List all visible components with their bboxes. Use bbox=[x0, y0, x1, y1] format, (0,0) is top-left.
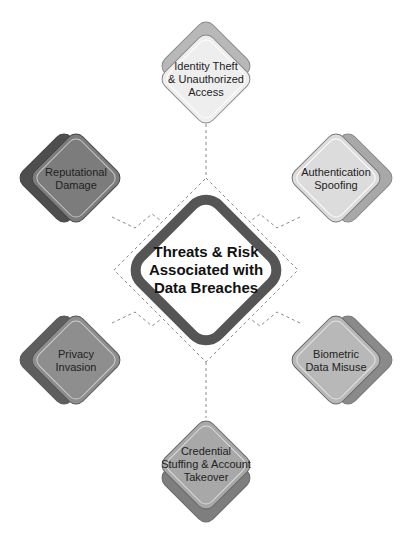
node-identity-theft: Identity Theft & Unauthorized Access bbox=[156, 58, 256, 100]
node-label-line: Spoofing bbox=[314, 179, 357, 192]
node-label-line: Authentication bbox=[301, 166, 371, 179]
node-label-line: Invasion bbox=[56, 361, 97, 374]
center-title-line-3: Data Breaches bbox=[154, 279, 258, 297]
node-privacy-invasion: Privacy Invasion bbox=[26, 346, 126, 376]
node-authentication-spoofing: Authentication Spoofing bbox=[286, 164, 386, 194]
node-label-line: Takeover bbox=[184, 471, 229, 484]
node-label-line: Stuffing & Account bbox=[161, 458, 251, 471]
node-credential-stuffing: Credential Stuffing & Account Takeover bbox=[151, 443, 261, 485]
node-label-line: Privacy bbox=[58, 348, 94, 361]
node-label-line: Reputational bbox=[45, 166, 107, 179]
node-label-line: Damage bbox=[55, 179, 97, 192]
node-label-line: Biometric bbox=[313, 348, 359, 361]
node-label-line: Credential bbox=[181, 445, 231, 458]
node-label-line: & Unauthorized bbox=[168, 73, 244, 86]
node-reputational-damage: Reputational Damage bbox=[26, 164, 126, 194]
center-title-line-2: Associated with bbox=[149, 261, 263, 279]
center-title: Threats & Risk Associated with Data Brea… bbox=[136, 240, 276, 300]
node-label-line: Identity Theft bbox=[174, 60, 237, 73]
center-title-line-1: Threats & Risk bbox=[153, 243, 258, 261]
node-label-line: Access bbox=[188, 86, 223, 99]
node-label-line: Data Misuse bbox=[305, 361, 366, 374]
node-biometric-data-misuse: Biometric Data Misuse bbox=[286, 346, 386, 376]
